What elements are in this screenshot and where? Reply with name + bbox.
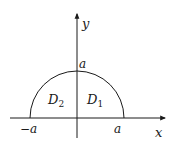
diagram-svg: y x a −a a D2 D1 xyxy=(0,0,178,162)
x-axis-label: x xyxy=(155,125,163,140)
neg-a-label: −a xyxy=(20,122,37,136)
region-d2-label: D2 xyxy=(47,92,64,109)
region-d1-label: D1 xyxy=(86,92,103,109)
y-axis-label: y xyxy=(81,16,90,31)
diagram-canvas: y x a −a a D2 D1 xyxy=(0,0,178,162)
pos-a-label: a xyxy=(114,122,121,136)
top-a-label: a xyxy=(79,57,86,71)
